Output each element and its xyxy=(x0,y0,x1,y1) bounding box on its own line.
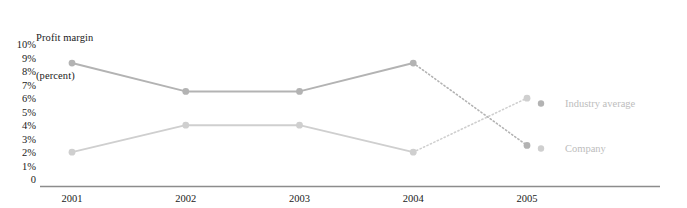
data-point-marker xyxy=(410,149,417,156)
series-line-segment xyxy=(300,125,414,152)
series-line-segment xyxy=(413,98,527,152)
legend-label-company: Company xyxy=(565,143,606,154)
data-point-marker xyxy=(524,95,531,102)
series-line-segment xyxy=(72,63,186,91)
legend-label-industry-average: Industry average xyxy=(565,98,635,109)
data-point-marker xyxy=(296,88,303,95)
data-point-marker xyxy=(182,122,189,129)
legend-marker-industry-average xyxy=(538,100,544,106)
data-point-marker xyxy=(69,149,76,156)
series-line-segment xyxy=(300,63,414,91)
data-point-marker xyxy=(69,60,76,67)
series-line-segment xyxy=(413,63,527,145)
profit-margin-chart: Profit margin (percent) 10%9%8%7%6%5%4%3… xyxy=(0,0,687,208)
data-point-marker xyxy=(524,142,531,149)
data-point-marker xyxy=(410,60,417,67)
data-point-marker xyxy=(296,122,303,129)
data-point-marker xyxy=(182,88,189,95)
series-line-segment xyxy=(72,125,186,152)
legend-marker-company xyxy=(538,145,544,151)
